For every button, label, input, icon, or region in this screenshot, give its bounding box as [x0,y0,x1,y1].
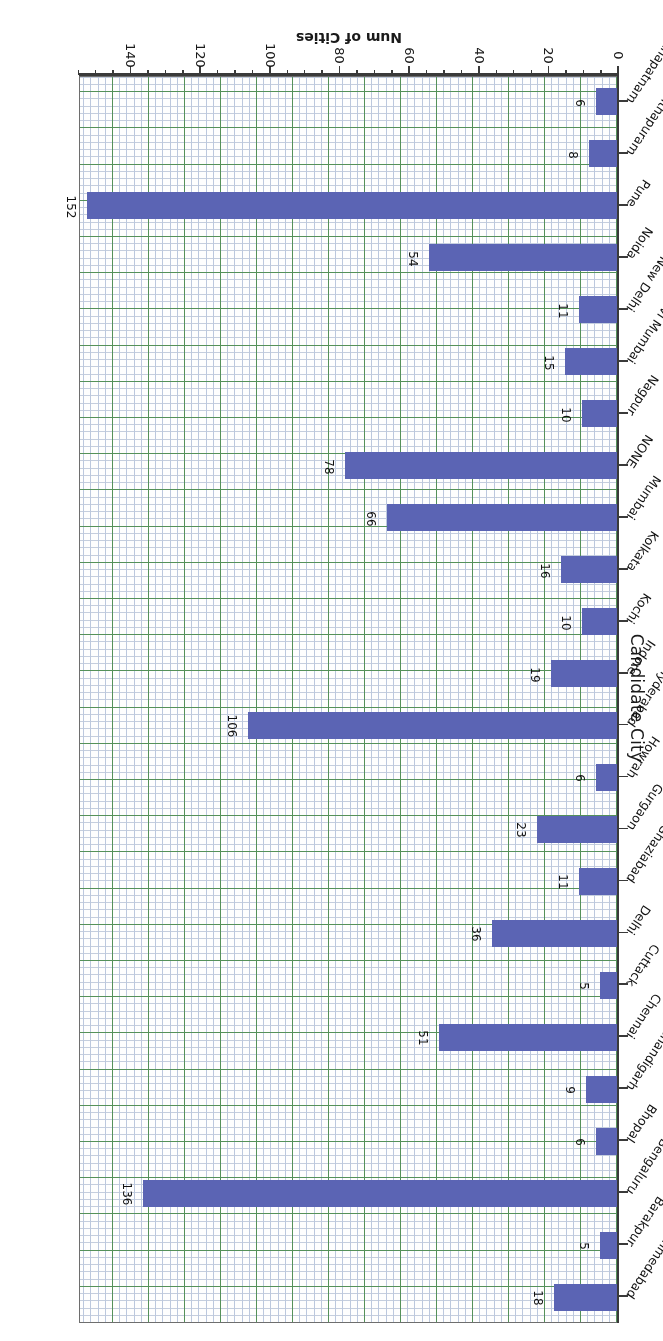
category-axis-line [79,74,619,77]
bar-ghaziabad[interactable] [579,868,617,895]
bar-value-label: 11 [556,298,570,324]
bar-new-delhi[interactable] [579,296,617,323]
bar-value-label: 51 [416,1025,430,1051]
category-label-nagpur: Nagpur [624,372,662,418]
bar-value-label: 8 [566,142,580,168]
bar-howrah[interactable] [596,764,617,791]
value-axis-minor-tick [426,70,427,75]
value-axis-minor-tick [321,70,322,75]
bar-mumbai[interactable] [387,504,617,531]
bar-chandigarh[interactable] [586,1076,617,1103]
bar-none[interactable] [345,452,617,479]
value-axis-minor-tick [531,70,532,75]
category-label-mumbai: Mumbai [624,473,663,523]
value-axis-minor-tick [496,70,497,75]
category-label-new-delhi: New Delhi [624,254,663,315]
category-label-bhopal: Bhopal [624,1102,661,1146]
bars-container: 1851366951536112361061910166678101511541… [79,76,617,1323]
bar-value-label: 11 [556,869,570,895]
bar-value-label: 5 [577,1233,591,1259]
bar-value-label: 54 [406,246,420,272]
bar-navi-mumbai[interactable] [565,348,617,375]
bar-value-label: 136 [120,1181,134,1207]
category-tick [619,828,628,830]
bar-chart-figure: Candidate City 1851366951536112361061910… [0,0,663,1341]
bar-thiruvananthapuram[interactable] [589,140,617,167]
bar-bengaluru[interactable] [143,1180,617,1207]
bar-value-label: 9 [563,1077,577,1103]
value-axis-minor-tick [461,70,462,75]
value-axis-minor-tick [78,70,79,75]
bar-value-label: 23 [514,817,528,843]
bar-ahmedabad[interactable] [554,1284,617,1311]
bar-value-label: 10 [559,610,573,636]
plot-area: 1851366951536112361061910166678101511541… [79,76,619,1323]
category-label-delhi: Delhi [624,903,654,938]
bar-pune[interactable] [87,192,617,219]
category-label-ghaziabad: Ghaziabad [624,823,663,887]
bar-value-label: 106 [225,714,239,740]
value-axis-minor-tick [513,70,514,75]
bar-delhi[interactable] [492,920,617,947]
value-axis-minor-tick [217,70,218,75]
category-tick [619,724,628,726]
bar-noida[interactable] [429,244,617,271]
bar-gurgaon[interactable] [537,816,617,843]
category-label-none: NONE [624,432,657,471]
value-axis-minor-tick [252,70,253,75]
bar-value-label: 66 [364,506,378,532]
category-label-kolkata: Kolkata [624,528,662,574]
bar-value-label: 36 [469,921,483,947]
bar-value-label: 6 [573,90,587,116]
bar-value-label: 10 [559,402,573,428]
bar-value-label: 16 [538,558,552,584]
value-axis-minor-tick [304,70,305,75]
bar-barakpur[interactable] [600,1232,617,1259]
value-axis-minor-tick [95,70,96,75]
category-label-cuttack: Cuttack [624,942,663,990]
bar-indore[interactable] [551,660,617,687]
value-axis-minor-tick [583,70,584,75]
value-axis-minor-tick [287,70,288,75]
value-axis-minor-tick [356,70,357,75]
value-axis-minor-tick [112,70,113,75]
value-axis-minor-tick [147,70,148,75]
bar-value-label: 6 [573,765,587,791]
value-axis-minor-tick [374,70,375,75]
bar-kochi[interactable] [582,608,617,635]
bar-value-label: 19 [528,662,542,688]
bar-value-label: 152 [64,194,78,220]
rotated-figure-wrapper: Candidate City 1851366951536112361061910… [0,0,663,1341]
bar-hyderabad[interactable] [248,712,617,739]
bar-bhopal[interactable] [596,1128,617,1155]
value-axis-minor-tick [234,70,235,75]
bar-value-label: 78 [322,454,336,480]
bar-value-label: 6 [573,1129,587,1155]
value-axis-minor-tick [165,70,166,75]
value-axis-minor-tick [182,70,183,75]
category-label-pune: Pune [624,177,654,211]
category-label-bengaluru: Bengaluru [624,1136,663,1198]
value-axis-minor-tick [565,70,566,75]
value-axis-minor-tick [443,70,444,75]
bar-nagpur[interactable] [582,400,617,427]
value-axis-minor-tick [391,70,392,75]
bar-chennai[interactable] [439,1024,617,1051]
category-label-visakhapatnam: Visakhapatnam [624,18,663,107]
category-label-noida: Noida [624,224,657,262]
bar-value-label: 15 [542,350,556,376]
value-axis-minor-tick [600,70,601,75]
bar-kolkata[interactable] [561,556,617,583]
bar-cuttack[interactable] [600,972,617,999]
bar-value-label: 18 [531,1285,545,1311]
bar-visakhapatnam[interactable] [596,89,617,116]
bar-value-label: 5 [577,973,591,999]
value-axis-title: Num of Cities [79,30,619,46]
